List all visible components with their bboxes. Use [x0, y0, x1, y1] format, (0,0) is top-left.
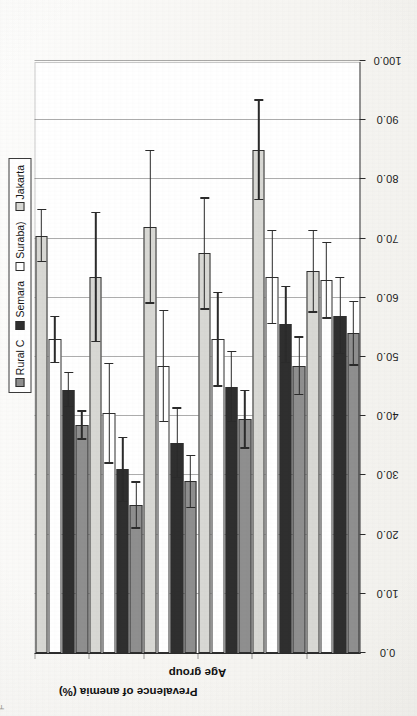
bar-semara[interactable] — [62, 390, 75, 653]
bar-ruralc[interactable] — [292, 366, 305, 653]
gridline — [34, 60, 359, 61]
error-bar — [339, 277, 340, 354]
error-bar — [217, 292, 218, 387]
bar-semara[interactable] — [333, 316, 346, 653]
error-bar — [285, 286, 286, 363]
bar-group-total — [34, 62, 88, 653]
error-bar — [176, 407, 177, 478]
y-axis-tick — [359, 60, 365, 61]
y-axis-tick-label: 70.0 — [376, 233, 398, 245]
error-bar — [108, 363, 109, 464]
bar-suraba[interactable] — [48, 339, 61, 653]
legend-swatch-jakarta-icon — [15, 202, 24, 211]
y-axis-tick-label: 60.0 — [376, 292, 398, 304]
bar-jakarta[interactable] — [35, 236, 48, 653]
y-axis-tick-label: 20.0 — [376, 529, 398, 541]
legend-item-jakarta[interactable]: Jakarta — [13, 165, 25, 211]
y-axis-tick-label: 10.0 — [376, 588, 398, 600]
error-bar — [162, 310, 163, 422]
bar-group-36-47-mo — [143, 62, 197, 653]
error-bar — [40, 209, 41, 262]
error-bar — [258, 100, 259, 201]
bar-semara[interactable] — [279, 324, 292, 653]
legend-swatch-surabaya-icon — [15, 262, 24, 271]
page-mark: F — [0, 704, 6, 710]
error-bar — [149, 150, 150, 304]
bar-semara[interactable] — [225, 387, 238, 653]
bar-ruralc[interactable] — [75, 425, 88, 653]
legend-swatch-rural-icon — [15, 378, 24, 387]
category-axis-tick — [34, 653, 35, 659]
legend-label: Semara — [13, 281, 25, 318]
category-axis-tick — [251, 653, 252, 659]
plot-area: Rural CSemaraSuraba)Jakarta 0.010.020.03… — [34, 62, 360, 654]
rotated-figure-canvas: Prevalence of anemia (%) Rural CSemaraSu… — [0, 0, 417, 716]
error-bar — [189, 455, 190, 508]
error-bar — [81, 410, 82, 440]
bar-jakarta[interactable] — [306, 271, 319, 653]
bar-group-24-35-mo — [197, 62, 251, 653]
error-bar — [122, 437, 123, 502]
legend-swatch-semarang-icon — [15, 321, 24, 330]
error-bar — [203, 197, 204, 309]
error-bar — [244, 390, 245, 449]
error-bar — [298, 336, 299, 395]
y-axis-tick-label: 30.0 — [376, 469, 398, 481]
error-bar — [95, 212, 96, 342]
bar-jakarta[interactable] — [198, 253, 211, 653]
error-bar — [271, 230, 272, 325]
y-axis-tick-label: 90.0 — [376, 114, 398, 126]
y-axis-tick-label: 0.0 — [379, 647, 395, 659]
bar-group-48-59-mo — [88, 62, 142, 653]
legend-label: Rural C — [13, 340, 25, 376]
y-axis-tick-label: 100.0 — [373, 55, 401, 67]
legend-label: Jakarta — [13, 165, 25, 199]
bar-suraba[interactable] — [320, 280, 333, 653]
legend-item-ruralc[interactable]: Rural C — [13, 340, 25, 388]
bar-ruralc[interactable] — [238, 419, 251, 653]
y-axis-title: Prevalence of anemia (%) — [58, 686, 197, 698]
category-axis-tick — [88, 653, 89, 659]
bar-ruralc[interactable] — [347, 333, 360, 653]
chart-legend: Rural CSemaraSuraba)Jakarta — [8, 158, 31, 393]
category-axis-tick — [197, 653, 198, 659]
x-axis-title: Age group — [168, 667, 226, 679]
bar-chart: Prevalence of anemia (%) Rural CSemaraSu… — [0, 0, 417, 716]
error-bar — [325, 242, 326, 319]
category-axis-tick — [143, 653, 144, 659]
legend-item-semara[interactable]: Semara — [13, 281, 25, 330]
y-axis-tick-label: 40.0 — [376, 410, 398, 422]
bar-group-0-11-mo — [306, 62, 360, 653]
bar-suraba[interactable] — [265, 277, 278, 653]
bar-jakarta[interactable] — [252, 150, 265, 653]
error-bar — [312, 230, 313, 313]
y-axis-tick-label: 80.0 — [376, 173, 398, 185]
legend-label: Suraba) — [13, 221, 25, 258]
bar-group-12-23-mo — [251, 62, 305, 653]
error-bar — [54, 316, 55, 363]
error-bar — [135, 481, 136, 528]
y-axis-tick-label: 50.0 — [376, 351, 398, 363]
category-axis-tick — [306, 653, 307, 659]
error-bar — [230, 351, 231, 422]
error-bar — [67, 372, 68, 408]
legend-item-suraba[interactable]: Suraba) — [13, 221, 25, 270]
error-bar — [352, 301, 353, 366]
